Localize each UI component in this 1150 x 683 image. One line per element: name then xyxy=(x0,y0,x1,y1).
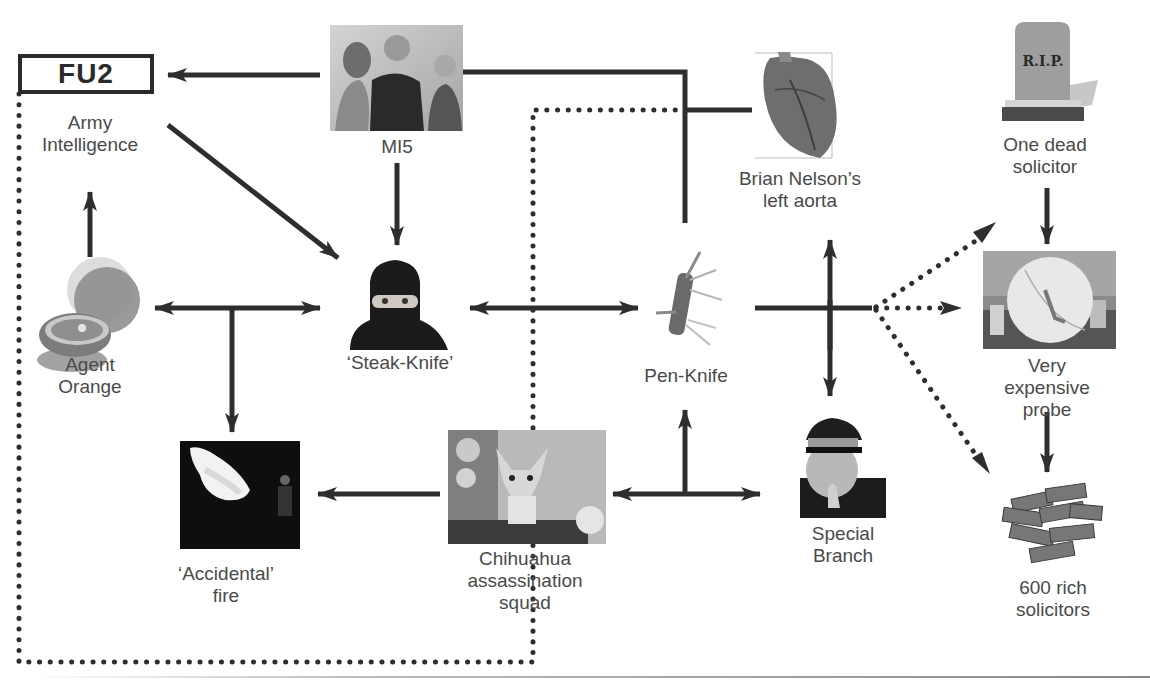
conspiracy-diagram: R.I.P. xyxy=(0,0,1150,683)
edge-mi5-to-pen xyxy=(463,72,685,223)
arrowhead-to-dead xyxy=(973,222,996,243)
arrowhead-to-probe xyxy=(940,301,962,315)
label-agent-orange: Agent Orange xyxy=(58,354,121,398)
balaclava-icon xyxy=(350,260,448,350)
label-chihuahua-squad: Chihuahua assassination squad xyxy=(467,548,582,614)
police-officer-icon xyxy=(800,418,886,518)
label-steak-knife: ‘Steak-Knife’ xyxy=(347,352,454,374)
heart-icon xyxy=(755,52,837,158)
bottom-divider xyxy=(30,676,1150,678)
cash-stack-icon xyxy=(1002,483,1102,562)
label-special-branch: Special Branch xyxy=(812,523,874,567)
edge-fu2-to-steak xyxy=(168,125,338,258)
satellite-dish-icon xyxy=(983,251,1116,349)
label-pen-knife: Pen-Knife xyxy=(644,365,727,387)
label-one-dead-solicitor: One dead solicitor xyxy=(1003,134,1086,178)
edge-dotted-to-rich xyxy=(876,310,978,458)
label-600-rich-solicitors: 600 rich solicitors xyxy=(1016,577,1090,621)
label-very-expensive-probe: Very expensive probe xyxy=(996,355,1099,421)
edge-dotted-to-dead xyxy=(876,238,980,307)
label-mi5: MI5 xyxy=(381,136,413,158)
flame-icon xyxy=(180,441,300,549)
fu2-box: FU2 xyxy=(18,54,154,94)
gravestone-icon: R.I.P. xyxy=(1002,22,1098,121)
dog-icon xyxy=(448,430,606,544)
label-army-intelligence: Army Intelligence xyxy=(42,112,138,156)
label-accidental-fire: ‘Accidental’ fire xyxy=(178,563,274,607)
svg-text:R.I.P.: R.I.P. xyxy=(1022,53,1063,69)
mi5-photo-group-icon xyxy=(330,25,463,131)
label-brian-nelson-aorta: Brian Nelson’s left aorta xyxy=(739,168,861,212)
arrowhead-to-rich xyxy=(972,452,990,474)
pen-knife-icon xyxy=(656,252,722,345)
